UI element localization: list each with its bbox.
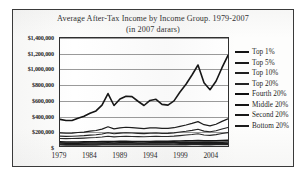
legend-swatch-icon xyxy=(235,93,249,95)
chart-subtitle: (in 2007 darars) xyxy=(13,24,293,35)
series-line xyxy=(60,55,228,120)
y-axis-tick-label: $600,000 xyxy=(32,96,54,103)
plot-wrapper xyxy=(59,37,229,147)
y-axis-tick-label: $1,000,000 xyxy=(28,65,54,72)
legend-swatch-icon xyxy=(235,114,249,116)
legend-swatch-icon xyxy=(235,125,249,127)
x-axis-tick-label: 2004 xyxy=(203,151,218,160)
legend-item-label: Top 1% xyxy=(252,48,275,56)
legend-swatch-icon xyxy=(235,104,249,106)
chart-title: Average After-Tax Income by Income Group… xyxy=(13,13,293,24)
legend-item[interactable]: Fourth 20% xyxy=(235,89,295,100)
chart-figure: Average After-Tax Income by Income Group… xyxy=(12,9,294,167)
legend-swatch-icon xyxy=(235,51,249,53)
legend-swatch-icon xyxy=(235,83,249,85)
x-axis-tick-label: 1979 xyxy=(52,151,67,160)
legend-swatch-icon xyxy=(235,62,249,64)
legend-item[interactable]: Top 20% xyxy=(235,79,295,90)
series-lines xyxy=(60,38,228,146)
legend-item-label: Middle 20% xyxy=(252,101,288,109)
legend-item-label: Bottom 20% xyxy=(252,122,289,130)
legend-item-label: Second 20% xyxy=(252,111,289,119)
x-axis-tick-label: 1984 xyxy=(82,151,97,160)
y-axis-tick-label: $400,000 xyxy=(32,112,54,119)
y-axis-tick-label: $800,000 xyxy=(32,81,54,88)
legend-item[interactable]: Top 5% xyxy=(235,58,295,69)
legend-item[interactable]: Second 20% xyxy=(235,110,295,121)
chart-title-block: Average After-Tax Income by Income Group… xyxy=(13,13,293,35)
y-axis-tick-label: $ xyxy=(51,144,54,151)
legend-item-label: Fourth 20% xyxy=(252,90,287,98)
legend-item-label: Top 20% xyxy=(252,80,278,88)
legend-item[interactable]: Top 1% xyxy=(235,47,295,58)
x-axis-tick-label: 1999 xyxy=(173,151,188,160)
y-axis-tick-labels: $1,400,000$1,200,000$1,000,000$800,000$6… xyxy=(13,37,56,147)
plot-area xyxy=(59,37,229,147)
y-axis-tick-label: $200,000 xyxy=(32,128,54,135)
legend-item[interactable]: Middle 20% xyxy=(235,100,295,111)
legend-item-label: Top 10% xyxy=(252,69,278,77)
x-axis-tick-label: 1994 xyxy=(143,151,158,160)
chart-legend: Top 1%Top 5%Top 10%Top 20%Fourth 20%Midd… xyxy=(235,47,295,131)
legend-swatch-icon xyxy=(235,72,249,74)
x-axis-tick-labels: 197919841989199419992004 xyxy=(59,149,229,161)
x-axis-tick-label: 1989 xyxy=(112,151,127,160)
legend-item[interactable]: Bottom 20% xyxy=(235,121,295,132)
legend-item-label: Top 5% xyxy=(252,59,275,67)
legend-item[interactable]: Top 10% xyxy=(235,68,295,79)
y-axis-tick-label: $1,200,000 xyxy=(28,49,54,56)
y-axis-tick-label: $1,400,000 xyxy=(28,34,54,41)
